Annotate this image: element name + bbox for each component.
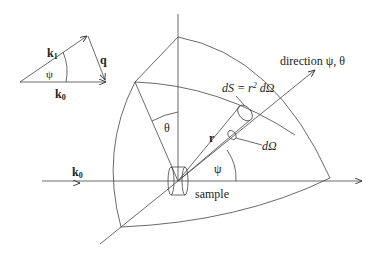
- scattering-geometry-diagram: k1 q ψ k0 direction ψ, θ dS = r2 dΩ θ r …: [0, 0, 375, 254]
- k0-label-triangle: k0: [55, 88, 66, 102]
- diagram-lines: [0, 0, 375, 254]
- vector-triangle: [20, 36, 106, 82]
- sample-label: sample: [195, 188, 229, 200]
- theta-label: θ: [164, 122, 170, 134]
- q-label: q: [100, 54, 107, 66]
- k0-label-beam: k0: [72, 166, 83, 180]
- dS-equation: dS = r2 dΩ: [222, 82, 274, 94]
- psi-label-triangle: ψ: [46, 69, 53, 80]
- dOmega-label: dΩ: [262, 140, 277, 152]
- direction-label: direction ψ, θ: [280, 55, 345, 67]
- r-label: r: [209, 132, 214, 144]
- k1-label: k1: [47, 47, 58, 61]
- psi-label-main: ψ: [214, 163, 222, 175]
